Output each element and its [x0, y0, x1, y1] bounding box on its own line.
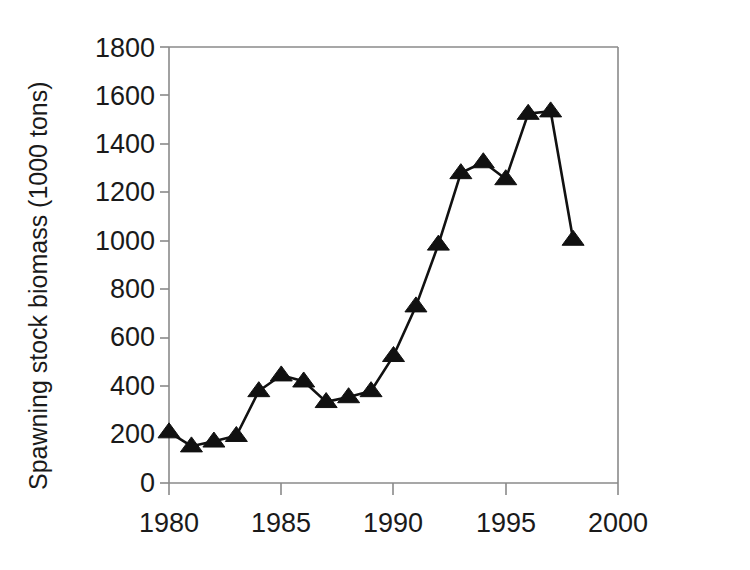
data-series-markers: [158, 102, 584, 452]
data-point-marker: [225, 426, 247, 441]
data-point-marker: [405, 297, 427, 312]
y-tick-label: 0: [140, 468, 155, 498]
data-point-marker: [427, 235, 449, 250]
data-point-marker: [383, 347, 405, 362]
x-tick-label: 1980: [139, 508, 199, 538]
y-tick-marks: [160, 47, 169, 483]
data-point-marker: [360, 382, 382, 397]
y-tick-label: 1600: [95, 81, 155, 111]
y-axis-title: Spawning stock biomass (1000 tons): [24, 81, 52, 490]
y-tick-label: 200: [110, 419, 155, 449]
y-tick-labels: 1800 1600 1400 1200 1000 800 600 400 200…: [95, 33, 155, 498]
x-tick-marks: [169, 483, 618, 495]
data-point-marker: [540, 102, 562, 117]
data-point-marker: [248, 382, 270, 397]
y-tick-label: 400: [110, 371, 155, 401]
data-point-marker: [562, 230, 584, 245]
y-tick-label: 800: [110, 274, 155, 304]
y-tick-label: 1800: [95, 33, 155, 63]
data-point-marker: [450, 164, 472, 179]
y-tick-label: 1200: [95, 177, 155, 207]
x-tick-labels: 1980 1985 1990 1995 2000: [139, 508, 648, 538]
data-point-marker: [270, 366, 292, 381]
y-tick-label: 1400: [95, 129, 155, 159]
data-point-marker: [158, 423, 180, 438]
x-tick-label: 2000: [588, 508, 648, 538]
chart-figure: Spawning stock biomass (1000 tons) 1800 …: [0, 0, 750, 570]
y-tick-label: 1000: [95, 226, 155, 256]
line-chart: Spawning stock biomass (1000 tons) 1800 …: [0, 0, 750, 570]
y-tick-label: 600: [110, 322, 155, 352]
x-tick-label: 1995: [476, 508, 536, 538]
data-point-marker: [472, 153, 494, 168]
x-tick-label: 1990: [363, 508, 423, 538]
x-tick-label: 1985: [251, 508, 311, 538]
